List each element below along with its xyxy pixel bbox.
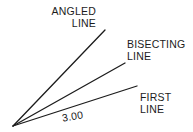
bisecting-line-label-row2: LINE [127,50,193,62]
diagram-canvas: ANGLED LINE BISECTING LINE FIRST LINE 3.… [0,0,193,132]
bisecting-line-label-row1: BISECTING [127,38,193,50]
angled-line-label-row2: LINE [18,17,96,29]
angled-line-label: ANGLED LINE [18,5,96,29]
angled-line-label-row1: ANGLED [18,5,96,17]
bisecting-line-label: BISECTING LINE [127,38,193,62]
first-line-label-row2: LINE [140,103,192,115]
first-line-label-row1: FIRST [140,91,192,103]
first-line-label: FIRST LINE [140,91,192,115]
